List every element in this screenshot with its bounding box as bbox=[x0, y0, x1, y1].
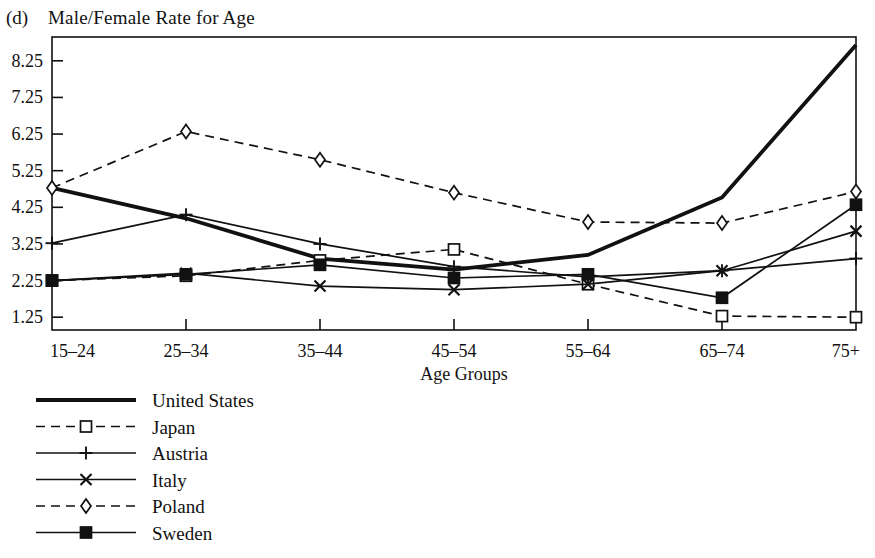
x-tick-label: 25–34 bbox=[164, 341, 209, 361]
legend-item-poland[interactable]: Poland bbox=[36, 496, 205, 517]
legend-item-japan[interactable]: Japan bbox=[36, 417, 196, 438]
data-point-filled-square bbox=[47, 275, 58, 286]
x-tick-label: 75+ bbox=[832, 341, 860, 361]
x-tick-label: 55–64 bbox=[566, 341, 611, 361]
data-point-open-diamond bbox=[181, 124, 191, 138]
legend-item-united-states[interactable]: United States bbox=[36, 390, 254, 411]
y-tick-label: 2.25 bbox=[12, 271, 44, 291]
data-point-open-square bbox=[81, 421, 92, 432]
data-point-open-square bbox=[449, 244, 460, 255]
data-point-plus bbox=[850, 252, 863, 265]
legend-label: Sweden bbox=[152, 523, 213, 544]
data-point-open-diamond bbox=[47, 181, 57, 195]
y-tick-label: 6.25 bbox=[12, 124, 44, 144]
series-united-states bbox=[52, 45, 856, 270]
data-point-filled-square bbox=[717, 292, 728, 303]
data-point-plus bbox=[448, 260, 461, 273]
y-tick-labels: 1.252.253.254.255.256.257.258.25 bbox=[12, 51, 44, 327]
x-tick-label: 65–74 bbox=[700, 341, 745, 361]
y-tick-label: 7.25 bbox=[12, 87, 44, 107]
data-point-open-diamond bbox=[717, 216, 727, 230]
legend-label: Italy bbox=[152, 470, 187, 491]
legend-item-austria[interactable]: Austria bbox=[36, 443, 209, 464]
data-point-open-square bbox=[851, 312, 862, 323]
data-point-plus bbox=[314, 237, 327, 250]
legend-label: Austria bbox=[152, 443, 209, 464]
x-tick-label: 15–24 bbox=[50, 341, 95, 361]
series-layer bbox=[46, 45, 863, 323]
legend-item-sweden[interactable]: Sweden bbox=[36, 523, 213, 544]
legend-item-italy[interactable]: Italy bbox=[36, 470, 187, 491]
y-tick-label: 4.25 bbox=[12, 197, 44, 217]
y-tick-label: 3.25 bbox=[12, 234, 44, 254]
data-point-filled-square bbox=[449, 272, 460, 283]
page-title: Male/Female Rate for Age bbox=[48, 8, 255, 27]
y-tick-label: 5.25 bbox=[12, 161, 44, 181]
data-point-open-diamond bbox=[851, 185, 861, 199]
figure-header: (d) Male/Female Rate for Age bbox=[0, 4, 875, 32]
legend-label: Poland bbox=[152, 496, 205, 517]
data-point-filled-square bbox=[81, 527, 92, 538]
x-tick-label: 45–54 bbox=[432, 341, 477, 361]
data-point-plus bbox=[80, 447, 93, 460]
data-point-filled-square bbox=[851, 199, 862, 210]
x-axis-title: Age Groups bbox=[420, 364, 508, 384]
line-chart: 15–2425–3435–4445–5455–6465–7475+ 1.252.… bbox=[0, 0, 875, 558]
x-tick-labels: 15–2425–3435–4445–5455–6465–7475+ bbox=[50, 341, 860, 361]
y-tick-label: 8.25 bbox=[12, 51, 44, 71]
data-point-open-diamond bbox=[81, 499, 91, 513]
data-point-plus bbox=[46, 237, 59, 250]
data-point-open-square bbox=[717, 311, 728, 322]
data-point-open-diamond bbox=[449, 186, 459, 200]
series-line bbox=[52, 132, 856, 224]
series-line bbox=[52, 45, 856, 270]
x-tick-label: 35–44 bbox=[298, 341, 343, 361]
legend-label: United States bbox=[152, 390, 254, 411]
chart-legend: United StatesJapanAustriaItalyPolandSwed… bbox=[36, 390, 254, 544]
data-point-open-diamond bbox=[583, 215, 593, 229]
data-point-filled-square bbox=[181, 269, 192, 280]
legend-label: Japan bbox=[152, 417, 196, 438]
data-point-open-diamond bbox=[315, 153, 325, 167]
data-point-filled-square bbox=[315, 259, 326, 270]
figure-panel: (d) Male/Female Rate for Age 15–2425–343… bbox=[0, 0, 875, 558]
data-point-filled-square bbox=[583, 269, 594, 280]
panel-letter: (d) bbox=[6, 8, 28, 27]
y-tick-label: 1.25 bbox=[12, 307, 44, 327]
